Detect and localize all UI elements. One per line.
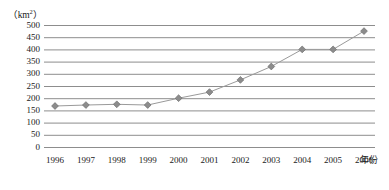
data-point-marker — [330, 46, 337, 53]
y-axis-tick-label: 350 — [6, 57, 40, 66]
y-axis-tick-label: 300 — [6, 69, 40, 78]
data-point-marker — [52, 103, 59, 110]
gridlines — [44, 26, 375, 148]
y-axis-unit-text: km — [18, 10, 30, 20]
data-point-marker — [144, 102, 151, 109]
y-axis-tick-label: 400 — [6, 45, 40, 54]
plot-area — [44, 25, 375, 147]
y-axis-tick-labels: 500450400350300250200150100500 — [0, 25, 40, 147]
y-axis-tick-label: 150 — [6, 106, 40, 115]
data-point-marker — [175, 95, 182, 102]
y-axis-tick-label: 0 — [6, 143, 40, 152]
y-axis-tick-label: 200 — [6, 94, 40, 103]
data-markers — [52, 28, 368, 110]
y-axis-tick-label: 450 — [6, 33, 40, 42]
y-axis-unit-open-paren: （ — [8, 10, 18, 20]
data-point-marker — [83, 102, 90, 109]
y-axis-tick-label: 50 — [6, 130, 40, 139]
plot-svg — [44, 25, 375, 147]
data-point-marker — [113, 101, 120, 108]
y-axis-tick-label: 100 — [6, 118, 40, 127]
x-axis-title: 年份 — [360, 155, 378, 165]
x-axis-tick-labels: 1996199719981999200020012002200320042005… — [44, 155, 375, 169]
data-point-marker — [237, 77, 244, 84]
y-axis-tick-label: 250 — [6, 82, 40, 91]
data-point-marker — [206, 89, 213, 96]
y-axis-tick-label: 500 — [6, 21, 40, 30]
data-point-marker — [268, 63, 275, 70]
data-point-marker — [361, 28, 368, 35]
y-axis-unit-close-paren: ） — [33, 10, 43, 20]
line-chart: （km2） 500450400350300250200150100500 199… — [0, 0, 389, 190]
data-point-marker — [299, 46, 306, 53]
